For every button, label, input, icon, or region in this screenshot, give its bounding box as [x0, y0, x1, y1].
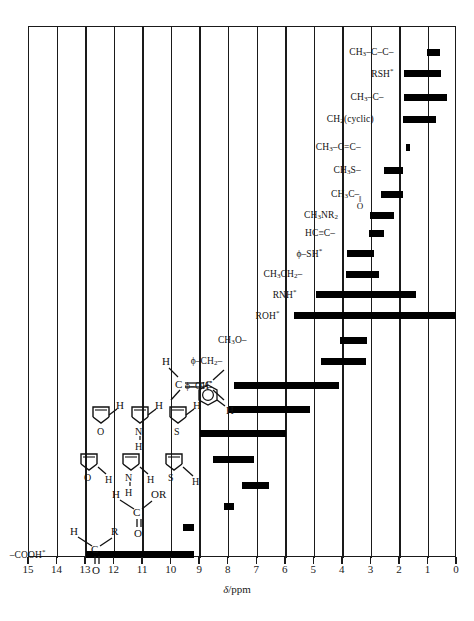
axis-title: δ/ppm	[0, 583, 474, 595]
svg-text:OR: OR	[151, 488, 167, 500]
shift-label: CH3S–	[334, 165, 361, 176]
furan-alpha-structure: O H	[89, 403, 131, 443]
axis-tick-label-3: 3	[368, 563, 374, 575]
range-bar	[294, 312, 455, 319]
range-bar	[381, 191, 402, 198]
shift-label: ROH*	[256, 309, 280, 321]
svg-text:N: N	[125, 472, 132, 483]
axis-tick-label-11: 11	[137, 563, 148, 575]
shift-label: HC≡C–	[305, 228, 335, 238]
axis-tick-label-4: 4	[339, 563, 345, 575]
axis-tick-label-1: 1	[425, 563, 431, 575]
svg-text:H: H	[105, 474, 112, 485]
figure-caption	[16, 608, 466, 618]
svg-text:H: H	[162, 355, 170, 367]
range-bar	[346, 271, 379, 278]
svg-text:H: H	[70, 525, 78, 537]
axis-tick-label-2: 2	[396, 563, 402, 575]
range-bar	[183, 524, 194, 531]
svg-text:N: N	[135, 426, 142, 437]
svg-text:C: C	[175, 378, 182, 390]
range-bar	[404, 94, 447, 101]
gridline-7	[257, 27, 259, 558]
svg-text:H: H	[193, 399, 201, 411]
carbonyl-o-annotation: ‖O	[357, 197, 364, 211]
range-bar	[370, 212, 394, 219]
range-bar	[213, 456, 254, 463]
svg-text:R: R	[111, 525, 119, 537]
x-axis: 1514131211109876543210	[28, 557, 456, 577]
gridline-1	[428, 27, 430, 558]
axis-tick-label-7: 7	[254, 563, 260, 575]
svg-text:O: O	[84, 472, 91, 483]
shift-label: CH3C–	[331, 189, 359, 200]
nmr-shift-chart: CH3–C–C–RSH*CH3–C–CH2(cyclic)CH3–C=C–CH3…	[28, 26, 456, 557]
range-bar	[347, 250, 374, 257]
range-bar	[242, 482, 269, 489]
shift-label: CH3–C=C–	[316, 142, 361, 153]
svg-text:H: H	[192, 476, 199, 487]
range-bar	[369, 230, 385, 237]
axis-tick-label-0: 0	[453, 563, 459, 575]
svg-text:H: H	[112, 488, 120, 500]
svg-text:H: H	[226, 404, 234, 416]
page-header-cut-text	[345, 0, 473, 9]
svg-text:O: O	[97, 426, 104, 437]
svg-text:H: H	[135, 441, 142, 452]
svg-text:H: H	[147, 474, 154, 485]
range-bar	[321, 358, 365, 365]
range-bar	[404, 70, 441, 77]
range-bar	[200, 430, 286, 437]
range-bar	[403, 116, 436, 123]
axis-tick-label-10: 10	[165, 563, 176, 575]
axis-tick-label-13: 13	[80, 563, 91, 575]
axis-tick-label-8: 8	[225, 563, 231, 575]
svg-text:O: O	[134, 527, 142, 539]
gridline-14	[57, 27, 59, 558]
axis-unit: /ppm	[228, 583, 251, 595]
range-bar	[406, 144, 410, 151]
range-bar	[384, 167, 403, 174]
shift-label: CH3–C–C–	[349, 47, 393, 58]
range-bar	[234, 382, 338, 389]
shift-label: RSH*	[371, 67, 393, 79]
thiophene-alpha-structure: S H	[166, 403, 208, 443]
thiophene-beta-structure: S H	[162, 452, 208, 488]
axis-tick-label-6: 6	[282, 563, 288, 575]
shift-label: CH3NR2	[304, 210, 338, 221]
shift-label: CH3O–	[218, 335, 247, 346]
shift-label: RNH*	[273, 288, 297, 300]
shift-label: CH3–C–	[351, 92, 384, 103]
svg-text:S: S	[174, 426, 180, 437]
svg-text:C: C	[133, 506, 140, 518]
shift-label: CH3CH2–	[263, 269, 302, 280]
svg-text:C: C	[91, 543, 98, 555]
axis-tick-label-12: 12	[108, 563, 119, 575]
shift-label: CH2(cyclic)	[327, 114, 374, 125]
axis-tick-label-15: 15	[23, 563, 34, 575]
svg-text:H: H	[155, 399, 163, 411]
shift-label: ϕ–SH*	[296, 247, 322, 259]
axis-tick-label-5: 5	[311, 563, 317, 575]
range-bar	[224, 503, 234, 510]
svg-text:H: H	[116, 399, 124, 411]
svg-text:S: S	[168, 472, 174, 483]
axis-tick-label-14: 14	[51, 563, 62, 575]
gridline-8	[228, 27, 230, 558]
range-bar	[316, 291, 416, 298]
range-bar	[427, 49, 440, 56]
axis-tick-label-9: 9	[196, 563, 202, 575]
range-bar	[340, 337, 367, 344]
furan-beta-structure: O H	[77, 452, 121, 486]
